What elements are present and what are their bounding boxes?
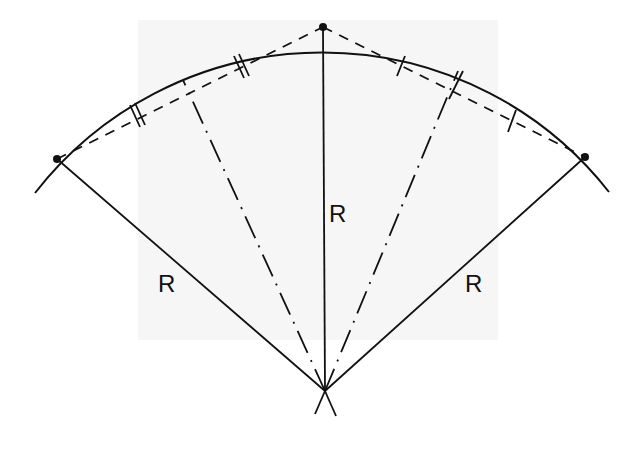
radius-label-right: R xyxy=(465,270,482,297)
radius-label-center: R xyxy=(329,200,346,227)
bisector-right xyxy=(325,71,458,391)
radius-left xyxy=(57,159,325,391)
chord-right xyxy=(323,27,585,157)
radius-label-left: R xyxy=(158,270,175,297)
radius-center xyxy=(323,27,325,391)
left-point xyxy=(53,155,61,163)
cross-mark-b xyxy=(325,391,336,416)
arc xyxy=(35,52,609,193)
right-point xyxy=(581,153,589,161)
tick-marks-left xyxy=(130,54,249,127)
cross-mark-a xyxy=(315,391,325,414)
top-point xyxy=(319,23,327,31)
arc-construction-diagram: R R R xyxy=(0,0,641,451)
radius-right xyxy=(325,157,585,391)
chord-left xyxy=(57,27,323,159)
bisector-left xyxy=(183,80,325,391)
